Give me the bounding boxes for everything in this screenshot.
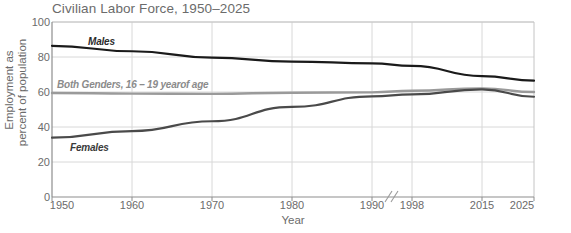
y-tick-label: 0 [4,191,50,203]
x-tick-label: 1980 [280,199,304,211]
x-tick-label: 1970 [200,199,224,211]
y-tick-label: 80 [4,51,50,63]
x-axis-title: Year [52,214,534,226]
series-label-males: Males [88,36,115,47]
x-tick-label: 2015 [470,199,494,211]
x-tick-label: 1960 [120,199,144,211]
series-line-females [52,89,534,137]
x-tick-label: 1998 [400,199,424,211]
series-line-males [52,46,534,81]
x-tick-label: 2025 [510,199,534,211]
y-tick-label: 100 [4,16,50,28]
series-label-females: Females [70,142,109,153]
x-tick-label: 1950 [50,199,74,211]
chart-title: Civilian Labor Force, 1950–2025 [52,1,250,16]
y-tick-label: 60 [4,86,50,98]
chart-container: Civilian Labor Force, 1950–2025 Employme… [0,0,571,233]
series-label-both-genders: Both Genders, 16 – 19 yearof age [57,79,208,90]
y-tick-label: 20 [4,156,50,168]
y-tick-label: 40 [4,121,50,133]
y-axis-ticks: 020406080100 [0,0,50,233]
x-tick-label: 1990 [360,199,384,211]
